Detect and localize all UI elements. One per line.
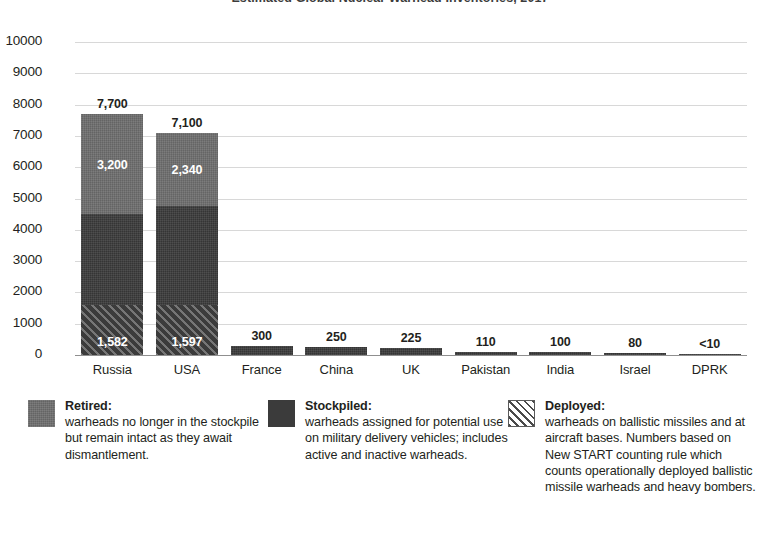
gridline-0 <box>75 355 747 356</box>
plot-area: 1000090008000700060005000400030002000100… <box>75 42 747 355</box>
chart-title: Estimated Global Nuclear Warhead Invento… <box>110 0 670 5</box>
y-axis-tick-label: 1000 <box>0 315 42 330</box>
y-axis-tick-label: 2000 <box>0 283 42 298</box>
x-axis-tick-label-usa: USA <box>150 362 225 377</box>
bar-total-label: 100 <box>550 335 571 349</box>
bar-stack[interactable]: 100 <box>529 352 591 355</box>
bar-group[interactable]: 225 <box>374 42 449 355</box>
bars-layer: 1,5823,2007,7001,5972,3407,1003002502251… <box>75 42 747 355</box>
bar-group[interactable]: 300 <box>224 42 299 355</box>
legend-item-stockpiled-description: warheads assigned for potential use on m… <box>305 414 508 463</box>
bar-segment-stockpiled[interactable] <box>604 353 666 356</box>
legend-item-retired: Retired: warheads no longer in the stock… <box>28 398 268 495</box>
legend-item-deployed: Deployed: warheads on ballistic missiles… <box>508 398 758 495</box>
y-axis-tick-label: 4000 <box>0 221 42 236</box>
y-axis-tick-label: 7000 <box>0 127 42 142</box>
bar-stack[interactable]: <10 <box>679 354 741 356</box>
bar-segment-stockpiled[interactable] <box>455 352 517 355</box>
legend-item-stockpiled-term: Stockpiled: <box>305 398 508 414</box>
bar-group[interactable]: 100 <box>523 42 598 355</box>
x-axis-tick-label-dprk: DPRK <box>672 362 747 377</box>
bar-total-label: 7,100 <box>172 116 203 130</box>
bar-stack[interactable]: 1,5823,2007,700 <box>81 114 143 355</box>
bar-stack[interactable]: 80 <box>604 353 666 356</box>
x-axis-tick-label-israel: Israel <box>598 362 673 377</box>
bar-total-label: 300 <box>251 329 272 343</box>
y-axis-tick-label: 9000 <box>0 64 42 79</box>
bar-group[interactable]: 80 <box>598 42 673 355</box>
legend-item-retired-text: Retired: warheads no longer in the stock… <box>65 398 268 463</box>
legend-item-stockpiled-text: Stockpiled: warheads assigned for potent… <box>305 398 508 463</box>
bar-stack[interactable]: 225 <box>380 348 442 355</box>
bar-stack[interactable]: 1,5972,3407,100 <box>156 133 218 355</box>
stockpiled-swatch-icon <box>268 400 295 427</box>
y-axis-tick-label: 0 <box>0 346 42 361</box>
bar-segment-stockpiled[interactable] <box>156 206 218 305</box>
y-axis-tick-label: 3000 <box>0 252 42 267</box>
deployed-swatch-icon <box>508 400 535 427</box>
x-axis-tick-label-india: India <box>523 362 598 377</box>
legend-item-retired-term: Retired: <box>65 398 268 414</box>
legend-item-deployed-description: warheads on ballistic missiles and at ai… <box>545 414 758 495</box>
deployed-value-label: 1,582 <box>81 335 143 349</box>
bar-group[interactable]: 250 <box>299 42 374 355</box>
y-axis-tick-label: 5000 <box>0 190 42 205</box>
bar-group[interactable]: 1,5823,2007,700 <box>75 42 150 355</box>
nuclear-warhead-inventory-chart: Estimated Global Nuclear Warhead Invento… <box>0 0 770 558</box>
x-axis-tick-label-russia: Russia <box>75 362 150 377</box>
bar-segment-stockpiled[interactable] <box>231 346 293 355</box>
bar-total-label: 7,700 <box>97 97 128 111</box>
legend-item-retired-description: warheads no longer in the stockpile but … <box>65 414 268 463</box>
bar-segment-stockpiled[interactable] <box>380 348 442 355</box>
bar-segment-stockpiled[interactable] <box>81 214 143 305</box>
bar-stack[interactable]: 250 <box>305 347 367 355</box>
deployed-value-label: 1,597 <box>156 335 218 349</box>
y-axis-tick-label: 10000 <box>0 33 42 48</box>
x-axis-tick-label-china: China <box>299 362 374 377</box>
bar-total-label: 80 <box>628 336 642 350</box>
bar-group[interactable]: <10 <box>672 42 747 355</box>
legend-item-deployed-term: Deployed: <box>545 398 758 414</box>
x-axis-tick-label-uk: UK <box>374 362 449 377</box>
bar-total-label: 250 <box>326 330 347 344</box>
bar-stack[interactable]: 300 <box>231 346 293 355</box>
y-axis-tick-label: 8000 <box>0 96 42 111</box>
legend-item-stockpiled: Stockpiled: warheads assigned for potent… <box>268 398 508 495</box>
chart-legend: Retired: warheads no longer in the stock… <box>28 398 758 495</box>
bar-segment-stockpiled[interactable] <box>529 352 591 355</box>
retired-swatch-icon <box>28 400 55 427</box>
y-axis-tick-label: 6000 <box>0 158 42 173</box>
bar-total-label: 225 <box>401 331 422 345</box>
bar-segment-stockpiled[interactable] <box>679 354 741 356</box>
bar-group[interactable]: 1,5972,3407,100 <box>150 42 225 355</box>
bar-total-label: 110 <box>476 335 496 349</box>
bar-stack[interactable]: 110 <box>455 352 517 355</box>
bar-segment-stockpiled[interactable] <box>305 347 367 355</box>
retired-value-label: 3,200 <box>81 158 143 172</box>
bar-group[interactable]: 110 <box>448 42 523 355</box>
x-axis-tick-label-pakistan: Pakistan <box>448 362 523 377</box>
retired-value-label: 2,340 <box>156 163 218 177</box>
x-axis-tick-label-france: France <box>224 362 299 377</box>
bar-total-label: <10 <box>699 337 720 351</box>
legend-item-deployed-text: Deployed: warheads on ballistic missiles… <box>545 398 758 495</box>
